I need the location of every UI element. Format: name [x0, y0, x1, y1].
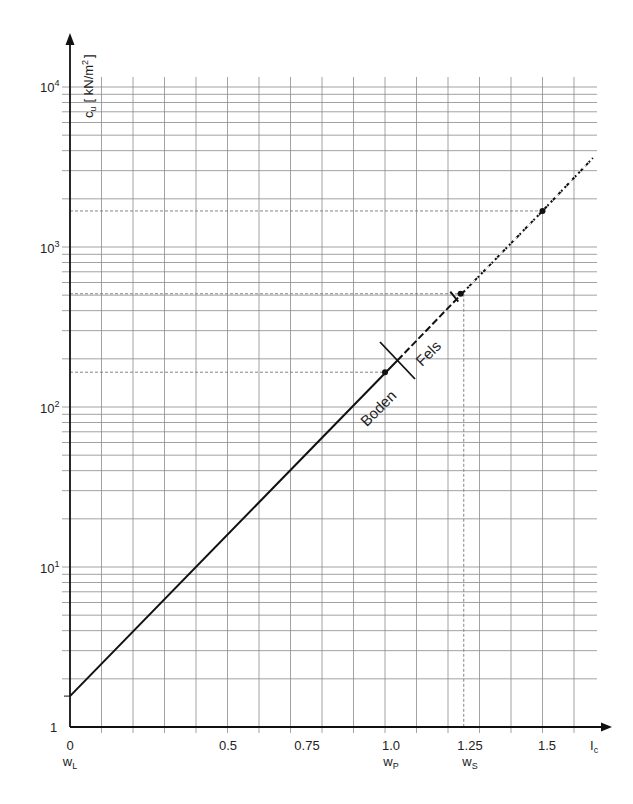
y-tick-10e1: 101	[40, 559, 59, 576]
data-point-marker	[382, 369, 388, 375]
y-tick-10e3: 103	[40, 239, 59, 256]
reference-lines	[70, 211, 543, 727]
x-axis-label: Ic	[590, 738, 599, 755]
y-axis-label: cu[ kN/m2]	[80, 54, 98, 118]
x-sublabel-wl: wL	[62, 754, 77, 771]
x-sublabel-wp: wP	[382, 754, 398, 771]
x-tick-1-5: 1.5	[538, 738, 556, 753]
y-tick-10e4: 104	[40, 78, 59, 95]
y-tick-labels: 104 103 102 101 1	[40, 78, 59, 735]
curve-boden	[70, 360, 398, 696]
data-point-marker	[540, 208, 546, 214]
y-axis-arrow-icon	[66, 33, 75, 45]
ws-cross-mark	[450, 292, 458, 302]
x-axis-arrow-icon	[601, 723, 612, 732]
x-sublabel-ws: wS	[461, 754, 477, 771]
x-tick-0-5: 0.5	[219, 738, 237, 753]
x-tick-1-0: 1.0	[382, 738, 400, 753]
y-tick-10e2: 102	[40, 399, 59, 416]
grid	[62, 77, 597, 733]
x-tick-0-75: 0.75	[294, 738, 319, 753]
x-tick-labels: 0 wL 0.5 0.75 1.0 wP 1.25 wS 1.5 Ic	[62, 738, 599, 771]
boden-label: Boden	[357, 387, 400, 430]
y-tick-1: 1	[50, 720, 57, 735]
x-tick-1-25: 1.25	[457, 738, 482, 753]
x-tick-0: 0	[66, 738, 73, 753]
data-point-marker	[458, 291, 464, 297]
cu-ic-chart: Boden Fels cu[ kN/m2] 104 103 102 101 1 …	[0, 0, 633, 804]
